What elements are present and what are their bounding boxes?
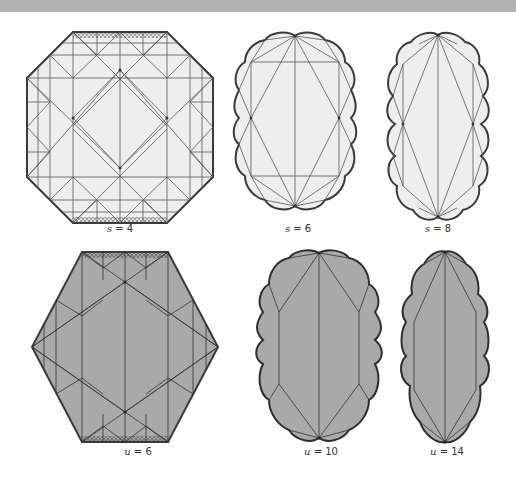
figure-u6-hexagon [30,250,220,444]
label-u6: u = 6 [124,446,152,457]
label-s6: s = 6 [285,223,311,234]
label-u10: u = 10 [304,446,338,457]
label-s4: s = 4 [107,223,133,234]
figure-u14-blob [400,250,490,444]
label-s8: s = 8 [425,223,451,234]
figure-s8-blob [383,32,493,222]
top-gray-bar [0,0,516,12]
label-u14: u = 14 [430,446,464,457]
figure-s4-octagon [27,32,213,223]
figure-s6-blob [233,32,357,212]
figure-u10-blob [255,250,385,444]
